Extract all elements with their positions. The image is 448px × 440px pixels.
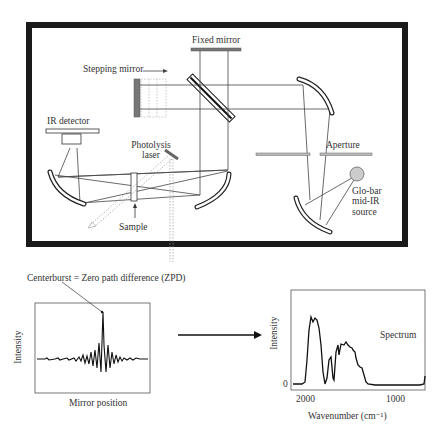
label-ir-detector: IR detector <box>47 116 89 126</box>
sample-cell <box>131 173 137 201</box>
bottom-right-curved-mirror <box>296 198 330 232</box>
center-curved-mirror <box>197 174 229 207</box>
stepping-mirror <box>134 79 140 117</box>
spectrum-x-tick-2000: 2000 <box>296 394 315 404</box>
spectrum-ylabel: Intensity <box>269 317 279 350</box>
label-globar-source: Glo-bar mid-IR source <box>352 186 382 217</box>
aperture-right <box>320 153 372 156</box>
interferogram-annotation: Centerburst = Zero path difference (ZPD) <box>27 273 185 283</box>
label-photolysis-line1: Photolysis <box>126 140 176 150</box>
label-globar-line1: Glo-bar <box>352 186 382 196</box>
label-stepping-mirror: Stepping mirror <box>83 64 143 74</box>
label-sample: Sample <box>119 222 148 232</box>
label-fixed-mirror: Fixed mirror <box>192 35 240 45</box>
label-photolysis-line2: laser <box>126 150 176 160</box>
ir-detector-plate <box>46 129 99 133</box>
spectrum-xlabel: Wavenumber (cm⁻¹) <box>308 411 387 421</box>
spectrum-y-zero-tick: 0 <box>283 379 288 389</box>
ir-detector <box>62 134 81 144</box>
label-aperture: Aperture <box>326 140 360 150</box>
label-globar-line3: source <box>352 207 382 217</box>
instrument-frame <box>29 25 405 244</box>
spectrum-x-tick-1000: 1000 <box>386 394 405 404</box>
aperture-left <box>256 153 310 156</box>
label-globar-line2: mid-IR <box>352 196 382 206</box>
interferogram-plot-area <box>35 303 150 393</box>
label-photolysis-laser: Photolysis laser <box>126 140 176 161</box>
interferogram-ylabel: Intensity <box>13 331 23 364</box>
globar-source <box>350 167 364 181</box>
spectrum-label: Spectrum <box>380 330 416 340</box>
diagram-canvas <box>0 0 448 440</box>
transform-arrow-head <box>254 331 262 339</box>
interferogram-xlabel: Mirror position <box>69 398 127 408</box>
fixed-mirror <box>191 48 241 51</box>
stepping-arrow-head <box>163 69 168 73</box>
